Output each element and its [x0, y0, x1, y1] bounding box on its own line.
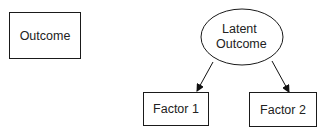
arrow-latent-to-factor1: [197, 62, 213, 91]
latent-label-line1: Latent: [222, 22, 257, 36]
outcome-node: Outcome: [10, 13, 81, 59]
factor1-node: Factor 1: [144, 93, 209, 126]
latent-label-line2: Outcome: [216, 37, 267, 51]
factor2-label: Factor 2: [260, 103, 306, 117]
latent-outcome-node: Latent Outcome: [201, 9, 283, 65]
outcome-label: Outcome: [20, 29, 71, 43]
factor1-label: Factor 1: [153, 102, 199, 116]
arrow-latent-to-factor2: [272, 61, 289, 92]
diagram-canvas: Outcome Latent Outcome Factor 1 Factor 2: [0, 0, 323, 133]
factor2-node: Factor 2: [250, 93, 317, 127]
